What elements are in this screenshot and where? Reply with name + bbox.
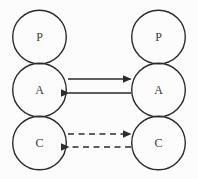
label-child-right: C <box>154 136 162 150</box>
label-adult-right: A <box>154 83 163 97</box>
label-parent-right: P <box>155 30 162 44</box>
label-adult-left: A <box>35 83 44 97</box>
ego-state-diagram: P A C P A C <box>0 0 198 179</box>
label-parent-left: P <box>36 30 43 44</box>
label-child-left: C <box>35 136 43 150</box>
diagram-canvas: P A C P A C <box>0 0 198 179</box>
